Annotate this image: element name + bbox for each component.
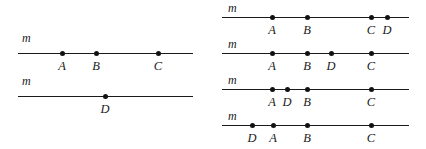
line-segment	[222, 17, 409, 18]
point-dot	[305, 15, 310, 20]
point-label: C	[367, 96, 375, 109]
point-dot	[385, 15, 390, 20]
point-label: B	[303, 24, 311, 37]
point-dot	[305, 87, 310, 92]
line-name-label: m	[228, 110, 237, 122]
point-dot	[94, 51, 99, 56]
point-label: C	[154, 60, 162, 73]
point-dot	[369, 15, 374, 20]
line-segment	[222, 53, 409, 54]
point-label: D	[100, 103, 109, 116]
point-dot	[250, 123, 255, 128]
point-label: D	[282, 96, 291, 109]
point-label: A	[268, 60, 276, 73]
point-label: A	[58, 60, 66, 73]
point-label: A	[268, 96, 276, 109]
point-label: D	[247, 132, 256, 145]
point-label: B	[92, 60, 100, 73]
line-segment	[18, 53, 193, 54]
point-dot	[329, 51, 334, 56]
line-name-label: m	[228, 38, 237, 50]
point-dot	[103, 94, 108, 99]
point-label: B	[303, 96, 311, 109]
point-label: D	[326, 60, 335, 73]
point-label: B	[303, 132, 311, 145]
point-dot	[369, 87, 374, 92]
line-name-label: m	[22, 75, 31, 87]
point-dot	[369, 51, 374, 56]
point-label: C	[367, 132, 375, 145]
point-dot	[271, 123, 276, 128]
line-name-label: m	[228, 2, 237, 14]
point-dot	[60, 51, 65, 56]
point-dot	[369, 123, 374, 128]
line-name-label: m	[228, 74, 237, 86]
point-dot	[305, 123, 310, 128]
point-dot	[270, 87, 275, 92]
point-label: A	[269, 132, 277, 145]
point-label: A	[268, 24, 276, 37]
point-dot	[270, 15, 275, 20]
point-dot	[285, 87, 290, 92]
point-dot	[270, 51, 275, 56]
point-label: C	[367, 24, 375, 37]
point-label: C	[367, 60, 375, 73]
line-name-label: m	[22, 32, 31, 44]
point-dot	[156, 51, 161, 56]
geometry-figure: mABCmDmABCDmABDCmADBCmDABC	[0, 0, 426, 149]
point-label: D	[382, 24, 391, 37]
line-segment	[222, 89, 409, 90]
point-dot	[305, 51, 310, 56]
point-label: B	[303, 60, 311, 73]
